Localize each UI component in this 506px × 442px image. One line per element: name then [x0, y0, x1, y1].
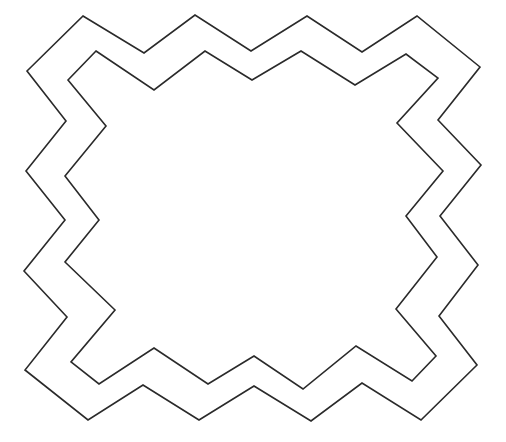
zigzag-frame-canvas: [0, 0, 506, 442]
inner-zigzag-border: [65, 51, 443, 389]
outer-zigzag-border: [24, 15, 481, 421]
zigzag-frame-drawing: [0, 0, 506, 442]
